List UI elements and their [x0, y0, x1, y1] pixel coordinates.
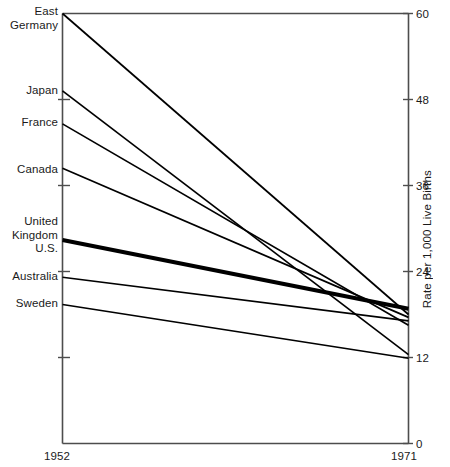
axis-lines [63, 14, 409, 444]
series-label-uk-us: United Kingdom U.S. [0, 215, 58, 256]
series-line [63, 168, 409, 317]
y-axis-title: Rate per 1,000 Live Births [421, 170, 437, 308]
series-line [63, 304, 409, 358]
series-label-japan: Japan [0, 84, 58, 98]
y-tick-label-60: 60 [416, 8, 429, 20]
infant-mortality-line-chart: East Germany Japan France Canada United … [0, 0, 450, 467]
series-lines [63, 14, 409, 359]
series-line [63, 14, 409, 315]
chart-plot-area [0, 0, 450, 467]
series-label-australia: Australia [0, 270, 58, 284]
x-tick-label-end: 1971 [391, 450, 417, 462]
y-tick-label-0: 0 [416, 438, 423, 450]
series-label-east-germany: East Germany [0, 5, 58, 32]
left-axis-ticks [58, 100, 70, 358]
x-tick-label-start: 1952 [44, 450, 70, 462]
series-label-france: France [0, 116, 58, 130]
series-label-canada: Canada [0, 163, 58, 177]
y-tick-label-48: 48 [416, 94, 429, 106]
series-label-sweden: Sweden [0, 297, 58, 311]
y-tick-label-12: 12 [416, 352, 429, 364]
